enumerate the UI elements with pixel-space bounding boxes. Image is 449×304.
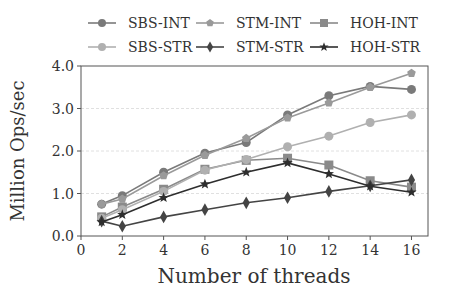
circle-marker-icon [283, 142, 292, 151]
diamond-marker-icon [160, 211, 167, 224]
y-tick-label: 1.0 [52, 186, 74, 202]
x-axis-label: Number of threads [157, 264, 350, 288]
legend-label: SBS-STR [128, 39, 193, 55]
pentagon-marker-icon [206, 19, 214, 26]
square-marker-icon [324, 161, 333, 170]
diamond-marker-icon [284, 191, 291, 204]
circle-marker-icon [366, 118, 375, 127]
pentagon-marker-icon [242, 134, 251, 142]
star-marker-icon [319, 42, 328, 51]
line-chart: SBS-INTSTM-INTHOH-INTSBS-STRSTM-STRHOH-S… [0, 0, 449, 304]
circle-marker-icon [200, 166, 209, 175]
y-tick-label: 2.0 [52, 143, 74, 159]
x-tick-label: 6 [200, 242, 209, 258]
legend-label: HOH-STR [350, 39, 421, 55]
legend-label: SBS-INT [128, 15, 190, 31]
x-tick-label: 12 [320, 242, 338, 258]
diamond-marker-icon [325, 185, 332, 198]
circle-marker-icon [98, 19, 106, 27]
x-tick-label: 4 [159, 242, 168, 258]
diamond-marker-icon [119, 220, 126, 233]
y-tick-label: 0.0 [52, 228, 74, 244]
circle-marker-icon [407, 110, 416, 119]
star-marker-icon [324, 169, 334, 179]
x-tick-label: 10 [279, 242, 297, 258]
circle-marker-icon [98, 43, 106, 51]
legend-label: HOH-INT [350, 15, 418, 31]
x-tick-label: 16 [403, 242, 421, 258]
pentagon-marker-icon [407, 69, 416, 77]
star-marker-icon [241, 167, 251, 177]
legend-label: STM-STR [236, 39, 304, 55]
legend-label: STM-INT [236, 15, 302, 31]
pentagon-marker-icon [325, 99, 334, 107]
x-tick-label: 0 [77, 242, 86, 258]
legend-item-hoh-int: HOH-INT [310, 15, 418, 31]
x-tick-label: 2 [118, 242, 127, 258]
y-tick-label: 3.0 [52, 101, 74, 117]
legend: SBS-INTSTM-INTHOH-INTSBS-STRSTM-STRHOH-S… [88, 15, 421, 55]
diamond-marker-icon [207, 41, 213, 52]
circle-marker-icon [324, 132, 333, 141]
legend-item-stm-str: STM-STR [196, 39, 304, 55]
diamond-marker-icon [243, 197, 250, 210]
x-tick-label: 14 [361, 242, 379, 258]
square-marker-icon [320, 19, 328, 27]
star-marker-icon [200, 179, 210, 189]
legend-item-sbs-str: SBS-STR [88, 39, 193, 55]
y-axis-ticks: 0.01.02.03.04.0 [52, 58, 81, 244]
diamond-marker-icon [201, 203, 208, 216]
legend-item-hoh-str: HOH-STR [310, 39, 421, 55]
circle-marker-icon [242, 155, 251, 164]
y-tick-label: 4.0 [52, 58, 74, 74]
y-axis-label: Million Ops/sec [7, 80, 28, 221]
circle-marker-icon [407, 85, 416, 94]
x-tick-label: 8 [242, 242, 251, 258]
x-axis-ticks: 0246810121416 [77, 236, 421, 258]
legend-item-sbs-int: SBS-INT [88, 15, 190, 31]
series-hoh-str [97, 158, 417, 227]
legend-item-stm-int: STM-INT [196, 15, 302, 31]
